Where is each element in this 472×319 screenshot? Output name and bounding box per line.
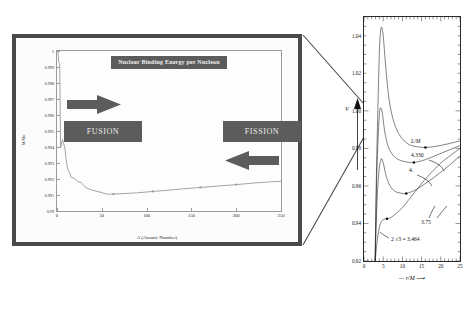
binding-energy-panel: Nuclear Binding Energy per Nucleon FUSIO… xyxy=(12,34,302,246)
x-axis-arrow-right: ⟶ xyxy=(416,275,425,281)
effective-potential-x-tick-label: 5 xyxy=(382,263,385,269)
binding-energy-y-tick-label: 0.994 xyxy=(45,145,54,150)
binding-energy-y-tick-mark xyxy=(57,211,60,212)
binding-energy-y-tick-label: 0.995 xyxy=(45,129,54,134)
binding-energy-y-tick-mark xyxy=(57,115,60,116)
binding-energy-y-tick-mark xyxy=(57,163,60,164)
effective-potential-x-tick-label: 0 xyxy=(363,263,366,269)
binding-energy-y-tick-label: 0.992 xyxy=(45,177,54,182)
effective-potential-x-tick-label: 15 xyxy=(419,263,424,269)
binding-energy-x-tick-label: 100 xyxy=(143,213,150,218)
binding-energy-y-tick-mark xyxy=(57,99,60,100)
x-axis-label-text: r/M xyxy=(406,275,415,281)
effective-potential-x-tick-label: 20 xyxy=(438,263,443,269)
binding-energy-x-tick-label: 150 xyxy=(188,213,195,218)
binding-energy-panel-inner: Nuclear Binding Energy per Nucleon FUSIO… xyxy=(16,38,298,242)
fusion-label: FUSION xyxy=(64,121,142,142)
effective-potential-y-tick-label: 1.04 xyxy=(352,33,361,39)
fission-direction-arrow xyxy=(225,151,279,170)
binding-energy-x-tick-mark xyxy=(281,208,282,211)
binding-energy-x-tick-mark xyxy=(57,208,58,211)
curve-label-4330: 4.330 xyxy=(411,152,424,158)
effective-potential-x-axis-label: — r/M ⟶ xyxy=(363,274,461,281)
figure-canvas: Nuclear Binding Energy per Nucleon FUSIO… xyxy=(0,0,472,319)
binding-energy-y-tick-label: 0.999 xyxy=(45,65,54,70)
effective-potential-y-axis-label: V xyxy=(345,106,349,112)
effective-potential-x-tick-label: 10 xyxy=(400,263,405,269)
potential-axis-arrow xyxy=(353,98,362,170)
binding-energy-y-tick-mark xyxy=(57,195,60,196)
binding-energy-x-tick-label: 0 xyxy=(56,213,58,218)
binding-energy-y-tick-label: 0.997 xyxy=(45,97,54,102)
binding-energy-y-tick-label: 0.993 xyxy=(45,161,54,166)
binding-energy-y-tick-label: 1 xyxy=(52,49,54,54)
effective-potential-panel: 0.920.940.960.981.001.021.04 0510152025 … xyxy=(325,10,467,298)
curve-label-375: 3.75 xyxy=(421,219,431,225)
binding-energy-y-tick-mark xyxy=(57,51,60,52)
binding-energy-x-tick-label: 200 xyxy=(233,213,240,218)
binding-energy-plot-area: Nuclear Binding Energy per Nucleon FUSIO… xyxy=(56,50,282,212)
curve-label-2sqrt3: 2 √3 = 3.464 xyxy=(391,236,420,242)
curve-label-4: 4. xyxy=(409,167,413,173)
binding-energy-y-tick-mark xyxy=(57,147,60,148)
binding-energy-x-tick-label: 50 xyxy=(100,213,105,218)
curve-label-L-over-M: L/M xyxy=(411,138,420,144)
binding-energy-y-tick-label: 0.998 xyxy=(45,81,54,86)
binding-energy-x-tick-mark xyxy=(236,208,237,211)
fission-label: FISSION xyxy=(223,121,301,142)
binding-energy-y-axis-label: M/Mo xyxy=(21,135,26,146)
binding-energy-y-tick-label: 0.991 xyxy=(45,193,54,198)
binding-energy-y-tick-label: 0.996 xyxy=(45,113,54,118)
binding-energy-y-tick-mark xyxy=(57,131,60,132)
effective-potential-y-tick-label: 0.96 xyxy=(352,183,361,189)
effective-potential-x-tick-label: 25 xyxy=(457,263,462,269)
fusion-direction-arrow xyxy=(67,95,121,114)
effective-potential-y-tick-label: 1.02 xyxy=(352,70,361,76)
binding-energy-y-tick-label: 0.99 xyxy=(47,209,54,214)
binding-energy-title: Nuclear Binding Energy per Nucleon xyxy=(111,56,227,69)
binding-energy-x-tick-mark xyxy=(147,208,148,211)
binding-energy-x-tick-label: 250 xyxy=(278,213,285,218)
binding-energy-x-tick-mark xyxy=(191,208,192,211)
binding-energy-x-axis-label: A (Atomic Number) xyxy=(16,235,298,240)
x-axis-arrow-left: — xyxy=(399,275,404,281)
binding-energy-y-tick-mark xyxy=(57,179,60,180)
effective-potential-y-tick-label: 0.94 xyxy=(352,220,361,226)
effective-potential-y-tick-label: 0.92 xyxy=(352,258,361,264)
binding-energy-x-tick-mark xyxy=(102,208,103,211)
binding-energy-y-tick-mark xyxy=(57,67,60,68)
binding-energy-y-tick-mark xyxy=(57,83,60,84)
